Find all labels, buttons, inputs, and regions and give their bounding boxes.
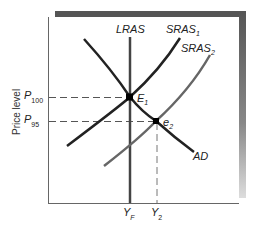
sras2-label: SRAS2 (181, 42, 215, 56)
lras-label: LRAS (116, 23, 145, 35)
sras1-label: SRAS1 (166, 23, 200, 37)
e1-point (126, 94, 133, 101)
ad-label: AD (192, 150, 208, 162)
p100-label: P100 (24, 89, 43, 104)
e2-point (153, 118, 159, 124)
p95-label: P95 (24, 113, 39, 128)
yf-label: YF (123, 206, 135, 221)
as-ad-diagram: LRAS SRAS1 SRAS2 AD E1 e2 P100 P95 YF Y2… (0, 0, 258, 232)
y-axis-title: Price level (11, 89, 22, 135)
y2-label: Y2 (151, 206, 162, 221)
frame-shadow-right (239, 11, 246, 198)
frame-shadow-top (55, 11, 246, 18)
